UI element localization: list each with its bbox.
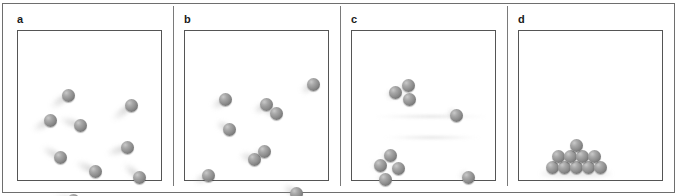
particle-sphere [307,78,320,91]
panel-d: d [510,6,672,186]
particle-sphere [67,194,80,196]
panel-box-a [17,30,162,181]
panel-a: a [9,6,171,186]
particle-sphere [462,171,475,184]
motion-streak [372,115,490,118]
particle-sphere [202,169,215,182]
particle-sphere [374,159,387,172]
particle-sphere [392,162,405,175]
particle-sphere [89,165,102,178]
particle-sphere [223,123,236,136]
panel-box-d [518,30,663,181]
particle-sphere [290,187,303,196]
particle-motion-figure: abcd [0,0,678,196]
panel-separator [173,6,174,186]
particle-sphere [133,171,146,184]
particle-sphere [379,173,392,186]
panel-box-c [351,30,496,181]
particle-sphere [570,139,583,152]
panel-b: b [176,6,338,186]
particle-sphere [402,79,415,92]
motion-streak [382,136,482,139]
panel-label-b: b [184,14,191,25]
particle-sphere [121,141,134,154]
particle-sphere [384,149,397,162]
panel-separator [340,6,341,186]
particle-sphere [74,119,87,132]
particle-sphere [62,89,75,102]
panel-label-c: c [351,14,357,25]
particle-sphere [44,114,57,127]
particle-sphere [450,109,463,122]
panel-c: c [343,6,505,186]
particle-sphere [594,161,607,174]
panel-label-d: d [518,14,525,25]
particle-sphere [219,93,232,106]
particle-sphere [403,93,416,106]
particle-sphere [125,99,138,112]
panel-separator [507,6,508,186]
particle-sphere [270,107,283,120]
particle-sphere [588,150,601,163]
particle-sphere [258,145,271,158]
particle-sphere [389,86,402,99]
particle-sphere [54,151,67,164]
panel-box-b [184,30,329,181]
panel-label-a: a [17,14,23,25]
